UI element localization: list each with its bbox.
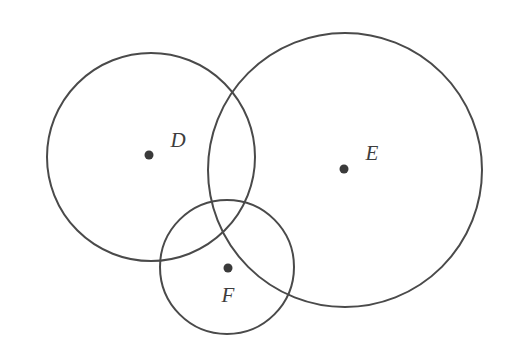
center-dot-e: [340, 165, 349, 174]
label-e: E: [365, 141, 379, 165]
diagram-background: [0, 0, 506, 364]
circles-canvas: D E F: [0, 0, 506, 364]
label-d: D: [169, 128, 185, 152]
geometry-diagram: D E F: [0, 0, 506, 364]
center-dot-f: [224, 264, 233, 273]
label-f: F: [221, 283, 235, 307]
center-dot-d: [145, 151, 154, 160]
